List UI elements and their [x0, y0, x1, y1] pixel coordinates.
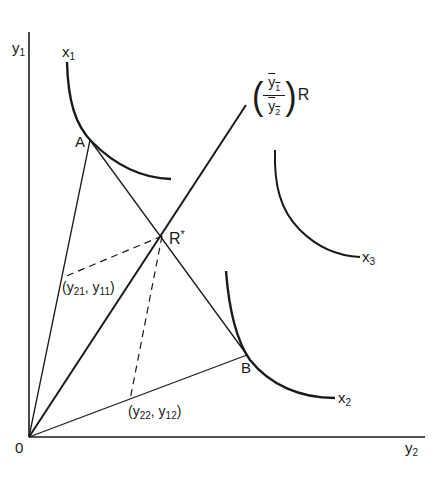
ray-R — [29, 105, 246, 437]
y2-text: y — [405, 439, 413, 456]
point-R-star-label: R* — [169, 229, 185, 247]
x3-label: x3 — [362, 249, 375, 267]
open-paren: ( — [252, 76, 263, 115]
fraction: y1 y2 — [263, 74, 285, 117]
curve-x2 — [226, 271, 335, 398]
diagram-lines — [0, 0, 448, 481]
y1-sub: 1 — [20, 47, 26, 58]
x2-label: x2 — [338, 390, 351, 408]
coord-b: y — [93, 279, 100, 295]
x1-text: x — [62, 43, 70, 60]
paren-close: ) — [110, 279, 115, 295]
y2-axis-label: y2 — [405, 440, 418, 458]
sep: , — [85, 279, 93, 295]
sep: , — [151, 403, 159, 419]
coord-b: y — [159, 403, 166, 419]
coord-left-label: (y21, y11) — [62, 280, 115, 297]
num-sub: 1 — [275, 83, 280, 93]
line-AB — [90, 140, 247, 355]
coord-bottom-label: (y22, y12) — [128, 404, 181, 421]
R-text: R — [169, 230, 181, 247]
point-A-label: A — [75, 134, 85, 149]
R-star-sup: * — [181, 228, 185, 240]
x3-text: x — [362, 248, 370, 265]
diagram-canvas: y1 y2 0 x1 x2 x3 A B R* ( y1 y2 ) R (y21… — [0, 0, 448, 481]
x3-sub: 3 — [370, 256, 376, 267]
y1-axis-label: y1 — [12, 40, 25, 58]
y1-text: y — [12, 39, 20, 56]
curve-x1 — [67, 62, 171, 179]
ray-R-text: R — [298, 86, 310, 104]
coord-a: y — [67, 279, 74, 295]
close-paren: ) — [285, 76, 296, 115]
coord-a: y — [133, 403, 140, 419]
ray-label: ( y1 y2 ) R — [252, 74, 309, 117]
coord-a-sub: 22 — [140, 410, 151, 421]
x2-sub: 2 — [346, 397, 352, 408]
line-OB — [29, 355, 247, 437]
dashed-bottom — [130, 236, 162, 400]
point-B-label: B — [241, 360, 251, 375]
x1-sub: 1 — [70, 51, 76, 62]
x2-text: x — [338, 389, 346, 406]
coord-b-sub: 11 — [100, 286, 110, 297]
fraction-bar — [263, 95, 285, 96]
numerator: y1 — [267, 74, 281, 93]
coord-b-sub: 12 — [166, 410, 177, 421]
x1-label: x1 — [62, 44, 75, 62]
y2-sub: 2 — [413, 447, 419, 458]
origin-label: 0 — [15, 440, 23, 455]
coord-a-sub: 21 — [74, 286, 85, 297]
paren-close: ) — [177, 403, 182, 419]
den-sub: 2 — [275, 107, 280, 117]
curve-x3 — [275, 150, 360, 257]
denominator: y2 — [267, 98, 281, 117]
